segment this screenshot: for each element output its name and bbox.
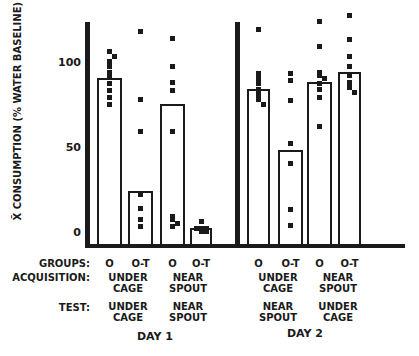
acquisition-label: UNDERCAGE — [98, 272, 158, 294]
data-point — [288, 141, 293, 146]
data-point — [138, 217, 143, 222]
data-point — [347, 54, 352, 59]
data-point — [170, 80, 175, 85]
data-point — [204, 229, 209, 234]
bar-day2-o — [307, 82, 332, 244]
group-label: O — [95, 258, 125, 269]
data-point — [347, 64, 352, 69]
data-point — [317, 44, 322, 49]
acquisition-row-label: ACQUISITION: — [0, 272, 90, 283]
bar-day1-o — [160, 104, 185, 244]
data-point — [317, 81, 322, 86]
bar-day2-o-t — [338, 72, 361, 245]
group-label: O-T — [126, 258, 156, 269]
group-label: O — [244, 258, 274, 269]
data-point — [256, 81, 261, 86]
test-row-label: TEST: — [20, 302, 90, 313]
day1-label: DAY 1 — [120, 330, 190, 343]
y-axis-day2 — [235, 22, 240, 248]
acquisition-label: NEARSPOUT — [158, 272, 218, 294]
data-point — [288, 98, 293, 103]
data-point — [347, 13, 352, 18]
data-point — [107, 75, 112, 80]
data-point — [317, 87, 322, 92]
group-label: O — [158, 258, 188, 269]
data-point — [170, 36, 175, 41]
groups-row-label: GROUPS: — [20, 258, 90, 269]
test-label: UNDERCAGE — [98, 301, 158, 323]
data-point — [175, 221, 180, 226]
data-point — [170, 129, 175, 134]
data-point — [138, 129, 143, 134]
data-point — [352, 90, 357, 95]
data-point — [107, 95, 112, 100]
data-point — [107, 81, 112, 86]
data-point — [199, 219, 204, 224]
acquisition-label: UNDERCAGE — [248, 272, 308, 294]
y-tick-100: 100 — [57, 56, 81, 69]
data-point — [138, 192, 143, 197]
data-point — [138, 97, 143, 102]
group-label: O-T — [276, 258, 306, 269]
group-label: O-T — [335, 258, 365, 269]
group-label: O-T — [186, 258, 216, 269]
y-axis-label: X̄ CONSUMPTION (% WATER BASELINE) — [12, 51, 23, 221]
data-point — [288, 71, 293, 76]
data-point — [138, 206, 143, 211]
y-tick-0: 0 — [57, 226, 81, 239]
data-point — [317, 95, 322, 100]
data-point — [107, 102, 112, 107]
data-point — [107, 64, 112, 69]
test-label: UNDERCAGE — [308, 301, 368, 323]
x-axis — [85, 244, 405, 248]
y-axis-day1 — [85, 22, 90, 248]
day2-label: DAY 2 — [270, 327, 340, 340]
data-point — [288, 223, 293, 228]
data-point — [107, 88, 112, 93]
data-point — [170, 224, 175, 229]
data-point — [317, 19, 322, 24]
acquisition-label: NEARSPOUT — [308, 272, 368, 294]
test-label: NEARSPOUT — [248, 301, 308, 323]
data-point — [112, 54, 117, 59]
data-point — [170, 88, 175, 93]
data-point — [347, 37, 352, 42]
data-point — [288, 78, 293, 83]
test-label: NEARSPOUT — [158, 301, 218, 323]
data-point — [256, 27, 261, 32]
data-point — [170, 64, 175, 69]
data-point — [288, 207, 293, 212]
data-point — [317, 124, 322, 129]
group-label: O — [305, 258, 335, 269]
data-point — [261, 102, 266, 107]
data-point — [322, 76, 327, 81]
data-point — [138, 224, 143, 229]
data-point — [347, 73, 352, 78]
y-tick-50: 50 — [57, 141, 81, 154]
data-point — [288, 161, 293, 166]
bar-day2-o — [247, 89, 270, 245]
data-point — [138, 29, 143, 34]
